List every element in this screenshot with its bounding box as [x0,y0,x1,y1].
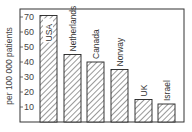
bar-canada [87,62,104,122]
bar-label-norway: Norway [115,37,125,67]
bar-label-uk: UK [139,84,149,96]
y-tick-label: 10 [24,102,34,112]
y-axis-label: per 100 000 patients [4,27,14,105]
bar-norway [111,70,128,123]
bar-label-usa: USA [44,24,54,42]
y-tick-label: 50 [24,42,34,52]
y-tick-label: 40 [24,57,34,67]
y-tick-label: 70 [24,12,34,22]
y-tick-label: 60 [24,27,34,37]
bar-israel [158,104,175,122]
y-tick-label: 20 [24,87,34,97]
y-axis-ticks: 10203040506070 [20,12,34,112]
y-tick-label: 30 [24,72,34,82]
bar-uk [135,100,152,123]
bar-netherlands [64,55,81,123]
bar-label-israel: Israel [162,80,172,101]
bar-label-netherlands: Netherlands [68,6,78,52]
bars: USANetherlandsCanadaNorwayUKIsrael [40,6,175,122]
bar-chart: per 100 000 patients 10203040506070 USAN… [0,0,192,132]
bar-label-canada: Canada [91,29,101,59]
